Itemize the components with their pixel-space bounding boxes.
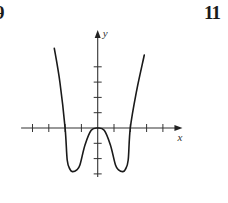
x-axis-label: x [176,131,182,143]
function-graph: x y [0,0,228,203]
y-axis-label: y [102,27,108,39]
axes: x y [21,27,182,177]
y-axis-arrow-icon [95,30,101,38]
